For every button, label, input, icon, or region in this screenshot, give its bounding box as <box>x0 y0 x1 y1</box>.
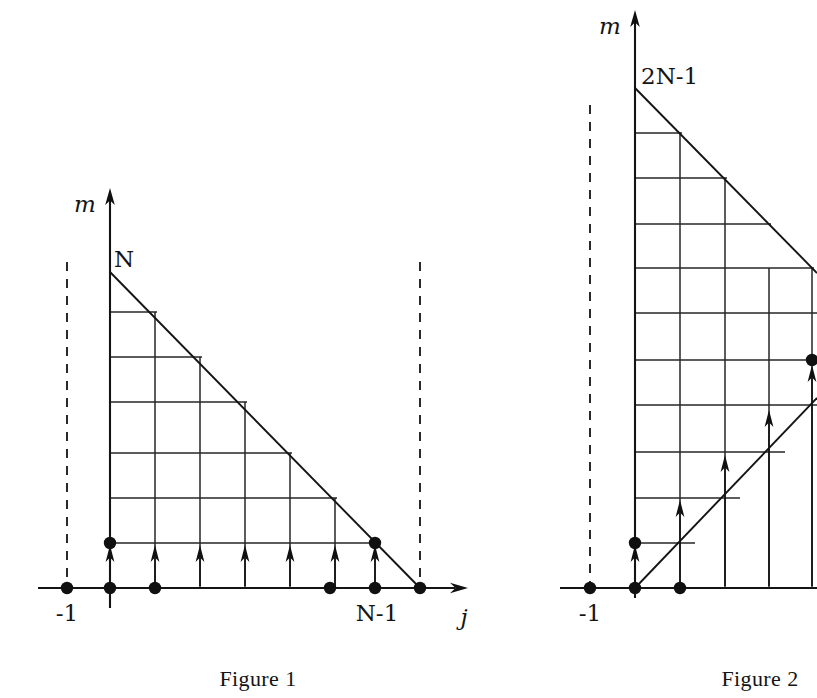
figure1-m-axis-label: m <box>74 191 96 217</box>
figures-svg: m N -1 N-1 j Figure 1 <box>0 0 817 698</box>
figure-1-group: m N -1 N-1 j Figure 1 <box>38 188 468 691</box>
figure2-upper-hypotenuse <box>635 88 817 273</box>
figure1-caption: Figure 1 <box>219 666 296 691</box>
figure2-caption: Figure 2 <box>721 666 798 691</box>
figure1-horizontal-gridlines <box>110 312 377 543</box>
figure1-xtick-minus-one: -1 <box>56 600 78 626</box>
figure2-lower-hypotenuse <box>635 398 817 588</box>
figure1-vertical-gridlines <box>155 312 375 588</box>
figure2-m-axis-label: m <box>599 13 621 39</box>
figure1-apex-label: N <box>114 246 134 272</box>
figure-board: m N -1 N-1 j Figure 1 <box>0 0 817 698</box>
figure1-arrows <box>106 545 380 586</box>
figure-2-group: m 2N-1 -1 Figure 2 <box>560 10 817 691</box>
figure2-xtick-minus-one: -1 <box>579 600 601 626</box>
figure1-xtick-n-minus-one: N-1 <box>356 600 399 626</box>
figure1-j-axis-label: j <box>455 604 467 630</box>
figure2-arrows <box>631 365 817 586</box>
figure2-horizontal-gridlines <box>635 133 817 543</box>
figure2-apex-label: 2N-1 <box>641 63 698 89</box>
